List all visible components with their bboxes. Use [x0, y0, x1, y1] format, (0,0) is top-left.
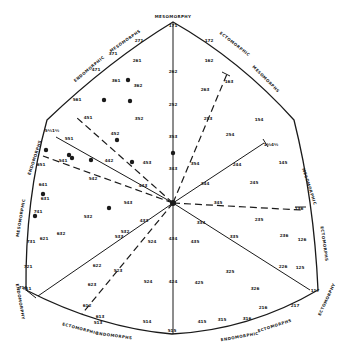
somatotype-label: 741: [34, 209, 43, 214]
somatotype-label: 561: [73, 97, 82, 102]
somatotype-label: 434: [169, 236, 178, 241]
pole-label-top: MESOMORPHY: [155, 14, 192, 19]
data-point: [171, 151, 175, 155]
pole-label-right-b: ECTOMORPHS: [320, 226, 330, 262]
somatotype-label: 425: [195, 280, 204, 285]
somatotype-label: 542: [89, 176, 98, 181]
somatotype-label: 326: [251, 286, 260, 291]
svg-text:ENDOMORPHIC: ENDOMORPHIC: [73, 55, 106, 83]
somatotype-label: 612: [83, 303, 92, 308]
boundary-ticks: [222, 72, 306, 207]
somatotype-label: 721: [24, 264, 33, 269]
somatotype-label: 443: [139, 183, 148, 188]
somatotype-label: 613: [96, 314, 105, 319]
data-point: [70, 156, 74, 160]
somatotype-label: 236: [280, 233, 289, 238]
somatotype-label: 435: [191, 239, 200, 244]
somatotype-label: 515: [168, 328, 177, 333]
somatotype-labels: 1712711723712612621624713613621635612522…: [19, 23, 320, 333]
svg-text:ECTOMORPHS: ECTOMORPHS: [320, 226, 330, 262]
somatotype-label: 217: [291, 303, 300, 308]
somatotype-label: 162: [205, 58, 214, 63]
somatotype-label: 244: [233, 162, 242, 167]
somatotype-label: 442: [105, 158, 114, 163]
pole-label-left: ENDOMORPHS: [27, 139, 43, 175]
somatotype-label: 623: [88, 282, 97, 287]
somatotype-label: 172: [205, 38, 214, 43]
somatotype-label: 362: [134, 83, 143, 88]
somatotype-label: 641: [39, 182, 48, 187]
somatotype-label: 622: [93, 263, 102, 268]
somatotype-label: 253: [204, 116, 213, 121]
somatotype-label: 171: [169, 23, 178, 28]
svg-text:ECTOMORPHY: ECTOMORPHY: [317, 282, 337, 316]
somatotype-label: 226: [279, 264, 288, 269]
pole-label-upper-left: ENDOMORPHIC: [73, 55, 106, 83]
data-point: [44, 148, 48, 152]
somatotype-label: 513: [94, 320, 103, 325]
pole-label-bottom-right-b: ECTOMORPHS: [257, 318, 292, 334]
somatotype-label: 125: [296, 265, 305, 270]
somatotype-label: 5½1½: [45, 128, 60, 133]
somatotype-label: 524: [144, 279, 153, 284]
somatotype-label: 262: [169, 69, 178, 74]
data-point: [126, 78, 130, 82]
somatotype-label: 452: [111, 131, 120, 136]
somatotype-label: 543: [124, 200, 133, 205]
svg-text:ECTOMORPHIC: ECTOMORPHIC: [219, 30, 252, 57]
somatotype-label: 621: [40, 236, 49, 241]
svg-text:ENDOMORPHS: ENDOMORPHS: [96, 331, 133, 341]
somatotype-label: 551: [65, 136, 74, 141]
somatotype-label: 216: [259, 305, 268, 310]
pole-label-bottom-right: ENDOMORPHIC: [220, 331, 259, 343]
somatotype-label: 315: [218, 317, 227, 322]
somatotype-label: 245: [250, 180, 259, 185]
somatotype-label: 136: [295, 206, 304, 211]
data-point: [89, 158, 93, 162]
somatotype-label: 514: [143, 319, 152, 324]
somatotype-label: 254: [226, 132, 235, 137]
somatotype-label: 117: [311, 288, 320, 293]
somatotype-label: 261: [133, 58, 142, 63]
pole-label-bottom-left-b: ENDOMORPHS: [96, 331, 133, 341]
centre-point: [170, 200, 176, 206]
somatotype-label: 154: [255, 117, 264, 122]
data-point: [115, 138, 119, 142]
somatotype-label: 433: [140, 218, 149, 223]
somatotype-label: 263: [201, 87, 210, 92]
somatotype-label: 453: [143, 160, 152, 165]
somatotype-label: 541: [59, 158, 68, 163]
somatotype-label: 532: [84, 214, 93, 219]
somatotype-label: 651: [37, 162, 46, 167]
somatotype-label: 344: [201, 181, 210, 186]
dashed-axes: [43, 74, 301, 314]
svg-text:ECTOMORPHS: ECTOMORPHS: [257, 318, 292, 334]
somatotype-label: 415: [198, 319, 207, 324]
somatotype-label: 343: [169, 166, 178, 171]
somatotype-label: 533: [115, 234, 124, 239]
plotted-points: [33, 78, 175, 218]
svg-text:ENDOMORPHS: ENDOMORPHS: [27, 139, 43, 175]
somatotype-label: 524: [148, 239, 157, 244]
somatotype-label: 163: [225, 79, 234, 84]
somatotype-label: 334: [197, 220, 206, 225]
somatotype-label: 424: [169, 279, 178, 284]
data-point: [102, 98, 106, 102]
data-point: [128, 99, 132, 103]
somatotype-label: 451: [84, 115, 93, 120]
somatotype-label: 252: [169, 102, 178, 107]
data-point: [130, 160, 134, 164]
somatotype-label: 632: [57, 231, 66, 236]
somatotype-label: 354: [191, 161, 200, 166]
data-point: [107, 206, 111, 210]
data-point: [33, 214, 37, 218]
somatotype-label: 316: [243, 316, 252, 321]
somatotype-label: 325: [226, 269, 235, 274]
somatotype-label: 352: [135, 116, 144, 121]
somatotype-label: 631: [41, 196, 50, 201]
somatotype-label: 126: [298, 237, 307, 242]
somatotype-label: 145: [279, 160, 288, 165]
somatotype-label: 335: [230, 234, 239, 239]
somatotype-label: 235: [255, 217, 264, 222]
pole-label-lower-right: ECTOMORPHY: [317, 282, 337, 316]
